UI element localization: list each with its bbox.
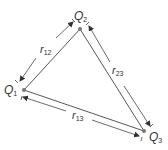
label-r13-sub: 13 [76,115,84,122]
label-r13: r13 [72,110,83,122]
label-q1: Q1 [4,84,17,97]
label-q1-symbol: Q [4,83,13,97]
side-q1-q2 [24,29,80,90]
label-r23-sub: 23 [116,70,124,77]
side-q1-q3 [24,90,144,131]
label-r12-sub: 12 [44,49,52,56]
label-q2-symbol: Q [74,9,83,23]
label-r23: r23 [112,65,123,77]
label-q3-symbol: Q [149,130,158,144]
label-r12: r12 [40,44,51,56]
side-q2-q3 [80,29,144,131]
charge-dot-q3 [142,129,146,133]
charge-dot-q1 [22,88,26,92]
label-q3: Q3 [149,131,162,144]
charge-dot-q2 [78,27,82,31]
label-q1-sub: 1 [13,90,17,97]
label-q2: Q2 [74,10,87,23]
label-q3-sub: 3 [158,137,162,144]
label-q2-sub: 2 [83,16,87,23]
